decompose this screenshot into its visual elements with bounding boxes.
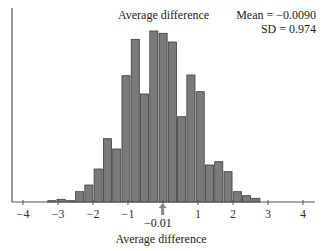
- x-tick-label: −2: [87, 207, 100, 221]
- mean-text: Mean = −0.0090: [236, 8, 316, 22]
- histogram-bar: [141, 94, 149, 202]
- histogram-bar: [94, 169, 102, 202]
- histogram-bar: [48, 201, 56, 202]
- x-axis-label: Average difference: [0, 232, 322, 247]
- stats-box: Mean = −0.0090 SD = 0.974: [236, 8, 316, 36]
- histogram-bar: [252, 198, 260, 202]
- histogram-bar: [131, 39, 139, 202]
- histogram: −4−3−2−11234: [0, 0, 322, 251]
- histogram-bar: [187, 75, 195, 202]
- histogram-bar: [215, 162, 223, 202]
- histogram-bar: [243, 196, 251, 202]
- mean-marker-label: −0.01: [144, 216, 172, 231]
- x-tick-label: 4: [300, 207, 306, 221]
- histogram-bar: [150, 31, 158, 202]
- x-tick-label: 1: [195, 207, 201, 221]
- histogram-bar: [224, 172, 232, 202]
- histogram-bar: [178, 117, 186, 202]
- bars: [48, 31, 260, 202]
- sd-text: SD = 0.974: [236, 22, 316, 36]
- histogram-bar: [168, 42, 176, 202]
- histogram-bar: [113, 149, 121, 202]
- x-tick-label: −3: [52, 207, 65, 221]
- histogram-bar: [122, 76, 130, 202]
- histogram-bar: [76, 192, 84, 202]
- histogram-bar: [85, 185, 93, 202]
- mean-arrow-icon: [159, 203, 167, 215]
- histogram-bar: [233, 192, 241, 202]
- chart-title: Average difference: [118, 8, 209, 23]
- histogram-bar: [205, 165, 213, 202]
- x-tick-label: 2: [230, 207, 236, 221]
- x-tick-label: −1: [122, 207, 135, 221]
- histogram-bar: [159, 33, 167, 202]
- histogram-bar: [196, 92, 204, 202]
- x-tick-label: 3: [265, 207, 271, 221]
- x-tick-label: −4: [17, 207, 30, 221]
- histogram-bar: [66, 201, 74, 202]
- histogram-bar: [103, 139, 111, 202]
